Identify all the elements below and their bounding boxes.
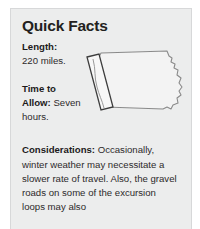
fact-length-value: 220 miles. <box>22 55 66 66</box>
quick-facts-card: Quick Facts Length: 220 miles. Time to A… <box>10 8 192 229</box>
page-title: Quick Facts <box>22 18 180 34</box>
fact-time-label-line1: Time to <box>22 83 56 94</box>
quick-facts-card-inner: Quick Facts Length: 220 miles. Time to A… <box>11 9 191 229</box>
fact-length: Length: 220 miles. <box>22 40 100 67</box>
considerations-label: Considerations: <box>22 144 95 155</box>
considerations-block: Considerations: Occasionally, winter wea… <box>22 143 180 214</box>
fact-length-label: Length: <box>22 41 57 52</box>
fact-time-label-line2: Allow: <box>22 97 51 108</box>
iowa-outline-path <box>94 51 182 109</box>
fact-time-to-allow: Time to Allow: Seven hours. <box>22 82 100 123</box>
